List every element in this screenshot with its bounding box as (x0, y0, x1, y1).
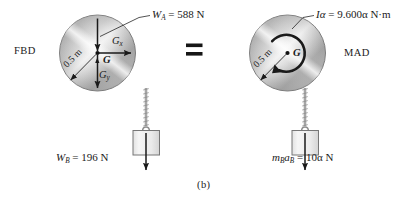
label-reaction-y: Gy (99, 70, 110, 82)
gx-subscript: x (120, 40, 123, 48)
center-point-left (95, 51, 99, 55)
gx-symbol: G (112, 35, 120, 46)
mab-symbol-m: m (272, 151, 280, 163)
label-weight-disk: WA = 588 N (152, 9, 204, 22)
wa-symbol: W (152, 8, 161, 20)
center-label-right: G (293, 48, 301, 59)
fbd-mad-figure (0, 0, 410, 202)
label-moment-couple: Iα = 9.600α N·m (316, 9, 391, 20)
gy-subscript: y (107, 74, 110, 82)
cord-left (143, 88, 150, 131)
wb-value: = 196 N (70, 151, 109, 163)
cord-right (302, 88, 309, 131)
wa-value: = 588 N (166, 8, 205, 20)
gy-symbol: G (99, 69, 107, 80)
mad-panel (250, 15, 326, 170)
fbd-panel (60, 15, 160, 170)
center-label-left: G (103, 55, 111, 66)
figure-caption: (b) (197, 180, 210, 191)
mab-value: = 10α N (294, 151, 333, 163)
mad-label: MAD (344, 48, 370, 59)
label-weight-block: WB = 196 N (56, 152, 108, 165)
ia-value: = 9.600α N·m (325, 8, 390, 20)
equals-sign (186, 44, 203, 56)
label-reaction-x: Gx (112, 36, 123, 48)
wb-symbol: W (56, 151, 65, 163)
fbd-label: FBD (14, 46, 36, 57)
center-point-right (285, 51, 289, 55)
label-block-inertia-force: mBaB = 10α N (272, 152, 333, 165)
